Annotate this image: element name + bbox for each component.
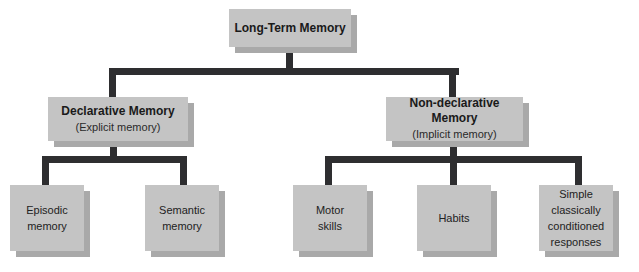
connector-to-motor [325,156,332,186]
node-motor-skills: Motor skills [293,185,367,251]
node-label-line: skills [318,218,342,234]
node-declarative-memory: Declarative Memory (Explicit memory) [48,97,188,141]
connector-to-habits [450,156,457,186]
node-label-line: responses [551,234,602,250]
node-long-term-memory: Long-Term Memory [229,9,351,47]
node-label-line: Simple [559,186,593,202]
node-label-line: conditioned [548,218,604,234]
node-label-line: Motor [316,202,344,218]
connector-top-horizontal [109,68,459,75]
connector-to-simple [575,156,582,186]
connector-to-semantic [180,156,187,186]
node-title: Declarative Memory [61,104,174,119]
node-label-line: memory [27,218,67,234]
node-label-line: Episodic [26,202,68,218]
node-subtitle: (Implicit memory) [412,126,496,142]
node-habits: Habits [417,185,491,251]
node-subtitle: (Explicit memory) [76,119,161,135]
connector-to-nondeclarative [449,68,456,97]
connector-declarative-horizontal [42,156,187,163]
node-label-line: Habits [438,210,469,226]
node-label-line: memory [162,218,202,234]
connector-to-episodic [42,156,49,186]
node-episodic-memory: Episodic memory [10,185,84,251]
node-title: Long-Term Memory [234,21,345,36]
node-simple-classically-conditioned-responses: Simple classically conditioned responses [539,185,613,251]
node-label-line: Semantic [159,202,205,218]
node-semantic-memory: Semantic memory [145,185,219,251]
connector-to-declarative [109,68,116,97]
node-label-line: classically [551,202,601,218]
node-title: Non-declarative Memory [386,96,523,126]
node-nondeclarative-memory: Non-declarative Memory (Implicit memory) [386,97,523,141]
